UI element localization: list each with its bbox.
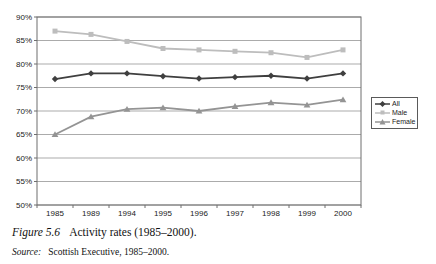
- data-marker-diamond: [340, 70, 346, 76]
- legend-label: Female: [392, 118, 415, 126]
- data-marker-square: [269, 50, 274, 55]
- y-axis-label: 55%: [16, 177, 32, 186]
- figure-title: Activity rates (1985–2000).: [69, 226, 196, 238]
- data-marker-diamond: [304, 75, 310, 81]
- legend-label: Male: [392, 109, 407, 117]
- legend-label: All: [392, 100, 400, 108]
- x-axis-label: 1985: [46, 209, 64, 218]
- data-marker-square: [89, 32, 94, 37]
- data-marker-diamond: [268, 73, 274, 79]
- y-axis-label: 90%: [16, 13, 32, 22]
- data-marker-diamond: [196, 75, 202, 81]
- chart-legend: AllMaleFemale: [371, 97, 418, 129]
- x-axis-label: 1995: [154, 209, 172, 218]
- y-axis-label: 60%: [16, 154, 32, 163]
- y-axis-label: 85%: [16, 36, 32, 45]
- y-axis-label: 65%: [16, 130, 32, 139]
- data-marker-diamond: [124, 70, 130, 76]
- legend-item-female: Female: [375, 118, 416, 126]
- y-axis-label: 70%: [16, 107, 32, 116]
- data-marker-square: [161, 46, 166, 51]
- x-axis-label: 2000: [334, 209, 352, 218]
- legend-item-all: All: [375, 100, 416, 108]
- data-marker-diamond: [88, 70, 94, 76]
- legend-square-icon: [375, 109, 390, 117]
- data-marker-square: [341, 47, 346, 52]
- series-line-male: [55, 31, 343, 57]
- data-marker-square: [53, 29, 58, 34]
- data-marker-diamond: [232, 74, 238, 80]
- x-axis-label: 1998: [262, 209, 280, 218]
- legend-item-male: Male: [375, 109, 416, 117]
- legend-triangle-icon: [375, 118, 390, 126]
- data-marker-diamond: [52, 76, 58, 82]
- x-axis-label: 1997: [226, 209, 244, 218]
- series-line-female: [55, 100, 343, 135]
- data-marker-square: [197, 47, 202, 52]
- legend-diamond-icon: [375, 100, 390, 108]
- x-axis-label: 1996: [190, 209, 208, 218]
- data-marker-square: [305, 55, 310, 60]
- x-axis-label: 1999: [298, 209, 316, 218]
- data-marker-square: [125, 39, 130, 44]
- y-axis-label: 50%: [16, 201, 32, 210]
- figure-number: Figure 5.6: [12, 226, 60, 238]
- x-axis-label: 1994: [118, 209, 136, 218]
- figure-caption: Figure 5.6Activity rates (1985–2000).: [12, 226, 197, 238]
- data-marker-diamond: [160, 73, 166, 79]
- data-marker-square: [233, 49, 238, 54]
- figure-source: Source:Scottish Executive, 1985–2000.: [12, 247, 169, 257]
- source-text: Scottish Executive, 1985–2000.: [48, 247, 169, 257]
- y-axis-label: 75%: [16, 83, 32, 92]
- figure-page: 90%85%80%75%70%65%60%55%50%1985198919941…: [0, 0, 436, 264]
- y-axis-label: 80%: [16, 60, 32, 69]
- source-label: Source:: [12, 247, 41, 257]
- x-axis-label: 1989: [82, 209, 100, 218]
